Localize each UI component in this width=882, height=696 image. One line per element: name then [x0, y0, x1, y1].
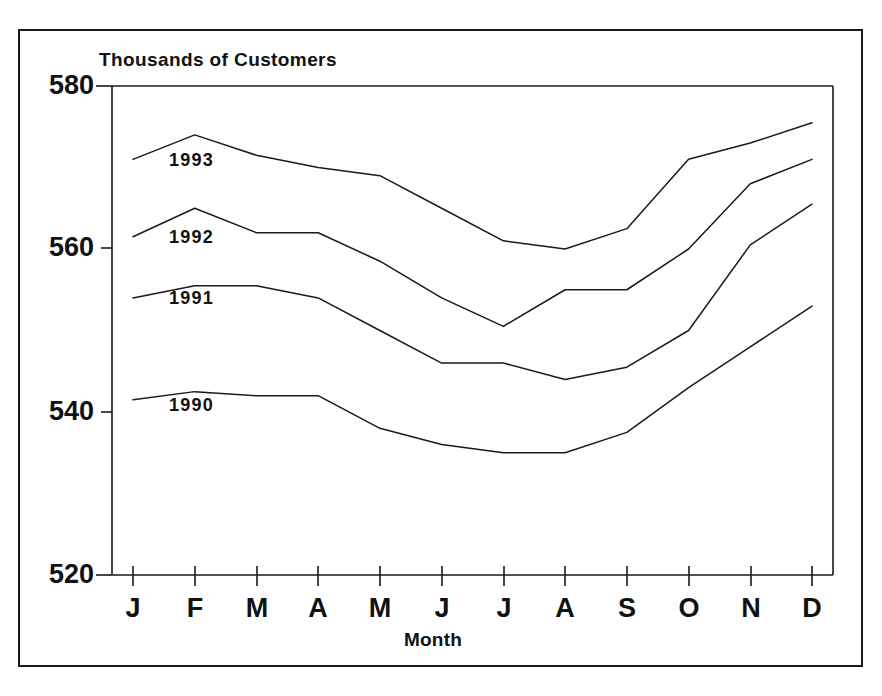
- series-label-1993: 1993: [169, 150, 214, 171]
- x-tick-label-jul: J: [484, 595, 524, 622]
- y-tick-label-520: 520: [22, 561, 94, 588]
- line-chart-plot: [0, 0, 882, 696]
- x-tick-label-sep: S: [607, 595, 647, 622]
- series-label-1990: 1990: [169, 395, 214, 416]
- y-tick-label-560: 560: [22, 234, 94, 261]
- y-axis-title: Thousands of Customers: [99, 49, 337, 71]
- x-axis-title: Month: [404, 629, 462, 651]
- x-tick-label-apr: A: [298, 595, 338, 622]
- x-tick-label-may: M: [360, 595, 400, 622]
- x-tick-label-nov: N: [731, 595, 771, 622]
- x-tick-label-aug: A: [545, 595, 585, 622]
- x-tick-label-dec: D: [792, 595, 832, 622]
- x-tick-label-feb: F: [175, 595, 215, 622]
- y-tick-label-540: 540: [22, 398, 94, 425]
- x-tick-label-jun: J: [422, 595, 462, 622]
- series-label-1992: 1992: [169, 227, 214, 248]
- x-tick-label-oct: O: [669, 595, 709, 622]
- y-tick-label-580: 580: [22, 72, 94, 99]
- series-line-1990: [133, 306, 812, 453]
- chart-figure: Thousands of Customers Month 580 560 540…: [0, 0, 882, 696]
- series-label-1991: 1991: [169, 288, 214, 309]
- x-tick-label-jan: J: [113, 595, 153, 622]
- series-line-1993: [133, 123, 812, 249]
- x-tick-label-mar: M: [237, 595, 277, 622]
- series-line-1991: [133, 204, 812, 379]
